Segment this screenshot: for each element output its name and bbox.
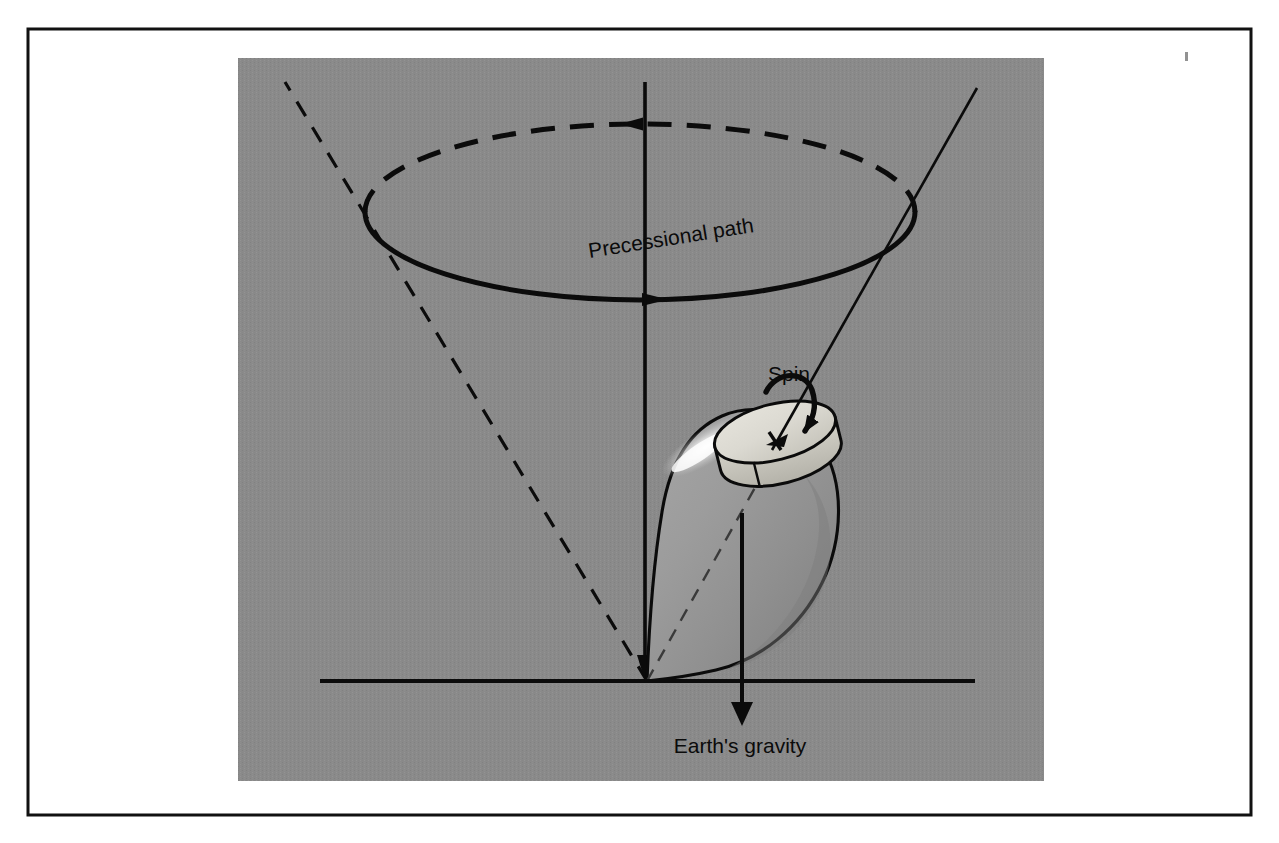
spin-label: Spin xyxy=(768,362,810,385)
figure-root: Precessional path Spin Earth's gravity xyxy=(0,0,1279,843)
page-speck xyxy=(1185,52,1188,61)
precession-diagram: Precessional path Spin Earth's gravity xyxy=(0,0,1279,843)
earths-gravity-label: Earth's gravity xyxy=(674,734,807,757)
